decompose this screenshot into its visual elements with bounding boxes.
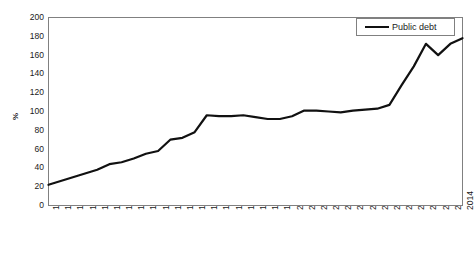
- legend-line-swatch: [365, 26, 389, 28]
- plot-area: [0, 0, 476, 255]
- public-debt-line-chart: % 020406080100120140160180200 1980198119…: [0, 0, 476, 255]
- legend: Public debt: [356, 18, 455, 36]
- legend-label-public-debt: Public debt: [392, 22, 437, 32]
- plot-frame: [49, 18, 463, 206]
